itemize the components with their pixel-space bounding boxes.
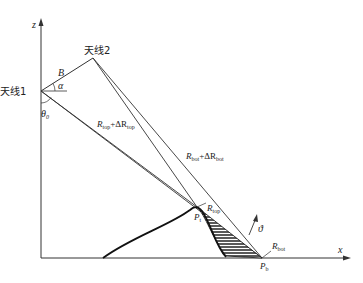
alpha-arc [53, 84, 55, 92]
theta-label: θ0 [41, 108, 49, 120]
Rtop-tick [197, 203, 206, 207]
normal-vector [249, 214, 258, 235]
slant-top-label: Rtop+ΔRtop [96, 119, 135, 130]
antenna2-label: 天线2 [84, 44, 110, 56]
normal-label: ϑ [258, 223, 264, 234]
Rbot-tick [262, 251, 271, 258]
interferometry-geometry-diagram: z x 天线1 天线2 B α θ0 Rtop+ΔRtop Rbot+ΔRbot… [0, 0, 363, 283]
z-axis-label: z [31, 19, 36, 30]
slant-bot-label: Rbot+ΔRbot [185, 151, 224, 162]
terrain-profile [103, 207, 226, 258]
Pb-label: Pb [259, 261, 269, 272]
alpha-label: α [58, 80, 64, 91]
baseline-label: B [58, 67, 64, 78]
x-axis [41, 256, 351, 261]
baseline [41, 58, 93, 91]
Rbot-label: Rbot [271, 241, 286, 252]
x-axis-label: x [337, 244, 343, 255]
Rtop-label: Rtop [206, 203, 220, 214]
z-axis [39, 18, 44, 258]
Pt-label: Pt [193, 212, 202, 223]
shadow-region [197, 207, 262, 258]
slant-line-bot-antenna2 [93, 58, 262, 258]
theta-arc [41, 98, 51, 104]
antenna1-label: 天线1 [0, 85, 26, 97]
slant-line-top-antenna2 [93, 58, 197, 207]
